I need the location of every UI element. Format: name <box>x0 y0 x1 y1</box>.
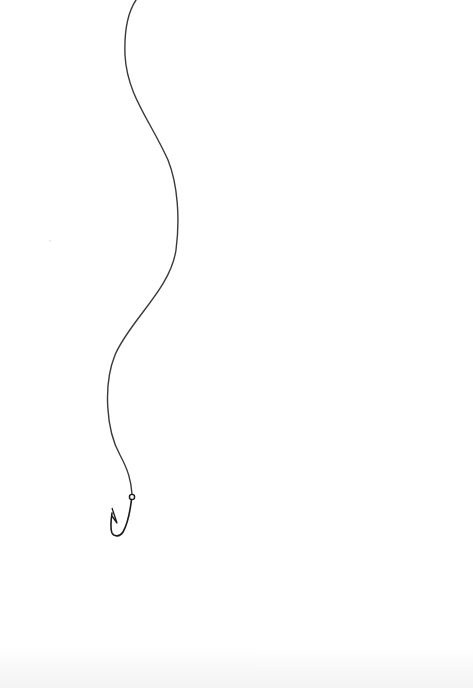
fishing-line-icon <box>108 0 178 494</box>
pencil-speck <box>49 240 51 242</box>
hook-eye-icon <box>129 494 134 499</box>
hook-barb-icon <box>112 508 117 523</box>
drawing <box>0 0 473 688</box>
